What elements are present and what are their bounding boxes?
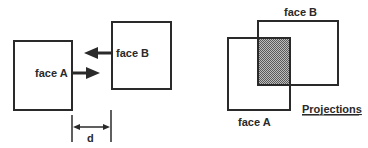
projections-caption: Projections	[302, 103, 362, 115]
right-panel: face B face A Projections	[228, 6, 362, 128]
face-b-label: face B	[116, 47, 149, 59]
face-a-label: face A	[35, 67, 68, 79]
arrow-left-icon	[84, 47, 112, 59]
left-panel: face A face B d	[14, 22, 171, 144]
arrow-right-icon	[72, 67, 100, 79]
diagram-canvas: face A face B d face B face A Projection…	[0, 0, 368, 148]
distance-label: d	[87, 132, 94, 144]
face-b-projection-label: face B	[284, 6, 317, 18]
face-a-projection-label: face A	[238, 116, 271, 128]
overlap-region	[258, 38, 290, 85]
